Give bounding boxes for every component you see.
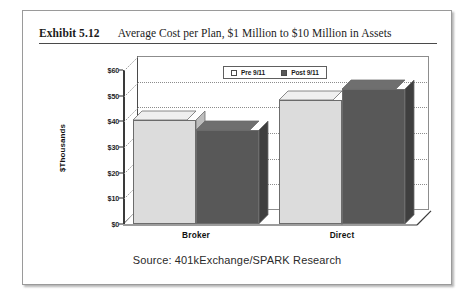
chart-legend: Pre 9/11Post 9/11 [223, 66, 327, 79]
bar-side-face [259, 130, 268, 224]
bar-side-face [405, 89, 414, 224]
bar-direct-pre-911 [279, 100, 342, 224]
y-axis-tick-label: $10 [85, 194, 119, 203]
bar-front-face [196, 130, 259, 224]
bar-front-face [342, 89, 405, 224]
bar-top-face [196, 121, 259, 130]
y-axis-label: $Thousands [58, 124, 67, 172]
bar-top-face [133, 111, 196, 120]
legend-swatch-icon [231, 70, 237, 76]
bar-front-face [133, 120, 196, 224]
bar-broker-pre-911 [133, 120, 196, 224]
chart-area: $Thousands $0$10$20$30$40$50$60 BrokerDi… [39, 56, 437, 246]
bar-top-face [279, 91, 342, 100]
exhibit-number: Exhibit 5.12 [39, 27, 100, 39]
x-axis-label-direct: Direct [330, 230, 355, 240]
legend-label: Pre 9/11 [241, 69, 265, 76]
y-axis-tick-label: $20 [85, 168, 119, 177]
legend-label: Post 9/11 [291, 69, 319, 76]
y-axis-tick-label: $40 [85, 117, 119, 126]
y-axis-tick-label: $0 [85, 220, 119, 229]
title-divider [39, 43, 437, 44]
plot-area: BrokerDirect Pre 9/11Post 9/11 [123, 70, 415, 224]
source-caption: Source: 401kExchange/SPARK Research [23, 254, 451, 266]
bar-direct-post-911 [342, 89, 405, 224]
y-axis-tick-label: $30 [85, 143, 119, 152]
legend-swatch-icon [281, 70, 287, 76]
exhibit-title-row: Exhibit 5.12 Average Cost per Plan, $1 M… [39, 23, 437, 43]
bar-front-face [279, 100, 342, 224]
y-axis-tick-label: $50 [85, 91, 119, 100]
legend-item-pre-9-11: Pre 9/11 [231, 69, 265, 76]
x-axis-label-broker: Broker [182, 230, 210, 240]
exhibit-frame: Exhibit 5.12 Average Cost per Plan, $1 M… [22, 10, 452, 285]
gridline [138, 56, 429, 57]
gridline-depth-connector [123, 82, 139, 98]
gridline-depth-connector [123, 56, 139, 72]
y-axis-tick-label: $60 [85, 66, 119, 75]
bar-top-face [342, 80, 405, 89]
legend-item-post-9-11: Post 9/11 [281, 69, 319, 76]
page-title: Average Cost per Plan, $1 Million to $10… [118, 27, 392, 39]
bar-broker-post-911 [196, 130, 259, 224]
